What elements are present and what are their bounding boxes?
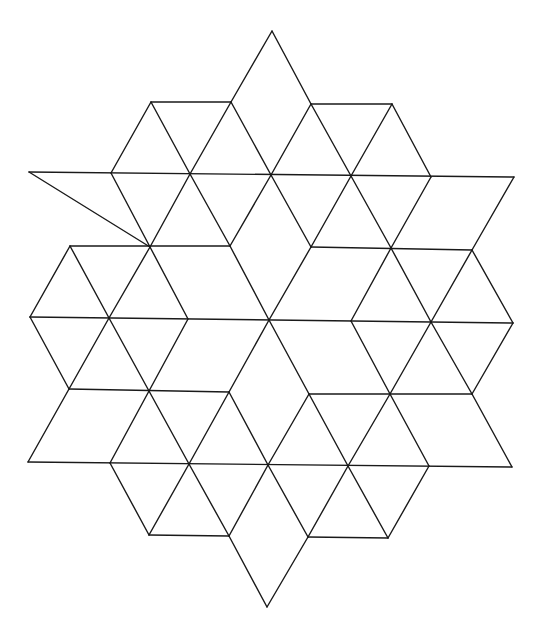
edge-H3-H4 <box>308 537 388 538</box>
edge-B3-C4 <box>311 104 351 176</box>
edge-G5-H4 <box>388 466 429 538</box>
edge-D1-E0 <box>30 246 70 317</box>
edge-E3-F4 <box>269 320 309 394</box>
edge-C2-D3 <box>190 174 230 246</box>
edge-H3-I <box>267 537 308 607</box>
edge-E1-F1 <box>69 318 109 389</box>
edge-B3-C3 <box>271 104 311 175</box>
edge-E4-F5 <box>351 321 390 394</box>
edge-F4-G3 <box>268 394 309 465</box>
edge-D3-E3 <box>230 246 269 320</box>
edge-F2-G2 <box>149 391 189 464</box>
edge-G4-H3 <box>308 466 348 537</box>
edge-G2-H2 <box>189 464 229 536</box>
edge-D2-E1 <box>109 247 150 318</box>
edge-E6-F6 <box>472 323 513 394</box>
edge-D6-E5 <box>431 250 472 322</box>
edge-E5-F5 <box>390 322 431 394</box>
tiling-edges <box>28 31 514 607</box>
edge-A-B3 <box>272 31 311 104</box>
edge-F6-G6 <box>472 394 512 467</box>
edge-D6-E6 <box>472 250 513 323</box>
edge-B4-C4 <box>351 104 392 176</box>
edge-F3-G2 <box>189 392 229 464</box>
edge-E3-F3 <box>229 320 269 392</box>
tiling-diagram <box>0 0 541 639</box>
edge-G2-H1 <box>149 464 189 535</box>
edge-B1-C2 <box>151 102 190 174</box>
edge-F2-G1 <box>110 391 149 463</box>
edge-C3-D3 <box>230 175 271 246</box>
edge-C4-D4 <box>311 176 351 247</box>
edge-E0-E6 <box>30 317 513 323</box>
edge-A-B2 <box>231 31 272 102</box>
edge-B4-C5 <box>392 104 431 177</box>
edge-B1-C1 <box>111 102 151 173</box>
edge-D5-E4 <box>351 248 391 321</box>
edge-B2-C3 <box>231 102 271 175</box>
edge-C0-D2 <box>29 172 150 247</box>
edge-F5-G4 <box>348 394 390 466</box>
edge-B2-C2 <box>190 102 231 174</box>
edge-C3-D4 <box>271 175 311 247</box>
edge-E2-F2 <box>149 319 188 391</box>
edge-D2-E2 <box>150 247 188 319</box>
edge-G3-H2 <box>229 465 268 536</box>
edge-C5-D5 <box>391 177 431 248</box>
edge-F3-G3 <box>229 392 268 465</box>
edge-G4-H4 <box>348 466 388 538</box>
edge-H2-I <box>229 536 267 607</box>
edge-F5-G5 <box>390 394 429 466</box>
edge-G1-H1 <box>110 463 149 535</box>
edge-F1-G0 <box>28 389 69 462</box>
edge-E1-F2 <box>109 318 149 391</box>
edge-D4-E3 <box>269 247 311 320</box>
edge-D5-E5 <box>391 248 431 322</box>
edge-D1-E1 <box>70 246 109 318</box>
edge-F4-G4 <box>309 394 348 466</box>
edge-C1-D2 <box>111 173 150 247</box>
edge-C2-D2 <box>150 174 190 247</box>
edge-C4-D5 <box>351 176 391 248</box>
edge-G3-H3 <box>268 465 308 537</box>
edge-H1-H2 <box>149 535 229 536</box>
edge-C6-D6 <box>472 177 514 250</box>
edge-E5-F6 <box>431 322 472 394</box>
edge-E0-F1 <box>30 317 69 389</box>
